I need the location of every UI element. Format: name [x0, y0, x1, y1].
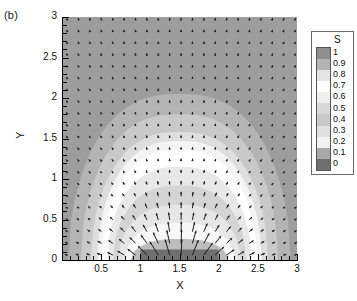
x-tick — [234, 256, 235, 260]
velocity-vector-head — [191, 18, 193, 20]
contour-plot-area — [62, 17, 297, 260]
colorbar-title: S — [334, 34, 341, 45]
velocity-vector-head — [112, 112, 114, 115]
x-tick-label: 2 — [216, 263, 222, 274]
y-tick — [63, 82, 67, 83]
y-tick — [63, 139, 69, 140]
x-tick-label: 1.5 — [173, 263, 187, 274]
x-tick — [219, 254, 220, 260]
velocity-vector-head — [78, 53, 80, 56]
velocity-vector-head — [260, 112, 262, 115]
x-tick — [140, 254, 141, 260]
colorbar-band — [317, 81, 330, 92]
y-tick — [63, 236, 67, 237]
x-tick-label: 1 — [138, 263, 144, 274]
velocity-vector-head — [294, 112, 296, 115]
x-axis-title: X — [176, 279, 183, 291]
y-tick — [63, 25, 67, 26]
colorbar-tick-label: 0.9 — [333, 59, 346, 68]
velocity-vector-head — [260, 65, 262, 68]
velocity-vector-head — [271, 148, 273, 151]
colorbar-tick-label: 0.1 — [333, 148, 346, 157]
y-tick — [63, 49, 67, 50]
colorbar-tick-label: 0.7 — [333, 81, 346, 90]
velocity-vector-head — [203, 53, 205, 56]
velocity-vector-head — [282, 18, 284, 21]
colorbar-tick-label: 0.2 — [333, 137, 346, 146]
velocity-vector-head — [260, 124, 262, 127]
x-tick-label: 3 — [294, 263, 300, 274]
velocity-vector-head — [282, 53, 284, 56]
velocity-vector-head — [67, 18, 69, 21]
velocity-vector-head — [282, 171, 284, 174]
velocity-vector-head — [203, 77, 205, 80]
x-tick — [78, 256, 79, 260]
x-tick — [117, 256, 118, 260]
velocity-vector-head — [101, 112, 103, 115]
velocity-vector-head — [169, 88, 171, 90]
velocity-vector-head — [271, 124, 273, 127]
velocity-vector-head — [260, 77, 262, 80]
velocity-vector-head — [260, 53, 262, 56]
velocity-vector-head — [282, 159, 284, 162]
velocity-vector-head — [282, 112, 284, 115]
velocity-vector-head — [66, 183, 69, 185]
y-tick — [63, 244, 67, 245]
velocity-vector-head — [66, 148, 68, 151]
velocity-vector-head — [282, 124, 284, 127]
y-tick — [63, 33, 67, 34]
velocity-vector-head — [169, 18, 171, 20]
velocity-vector-head — [294, 30, 296, 33]
y-tick — [63, 155, 67, 156]
x-tick — [266, 256, 267, 260]
velocity-vector-head — [294, 136, 296, 139]
velocity-vector-head — [294, 54, 296, 57]
velocity-vector-head — [294, 207, 297, 209]
velocity-vector-head — [248, 100, 250, 103]
x-tick — [101, 254, 102, 260]
y-tick — [63, 90, 67, 91]
velocity-vector-head — [89, 112, 91, 115]
y-tick — [63, 179, 69, 180]
velocity-vector-head — [101, 53, 103, 56]
x-tick-label: 0.5 — [94, 263, 108, 274]
velocity-vector-head — [294, 231, 297, 233]
x-tick — [86, 256, 87, 260]
velocity-vector-head — [89, 89, 91, 92]
velocity-vector-head — [66, 77, 68, 80]
velocity-vector-head — [282, 136, 284, 139]
velocity-vector-head — [191, 88, 193, 91]
velocity-vector-head — [89, 42, 91, 45]
x-tick — [109, 256, 110, 260]
velocity-vector-head — [294, 171, 296, 174]
x-tick — [274, 256, 275, 260]
y-tick — [63, 220, 69, 221]
y-tick — [63, 252, 67, 253]
y-tick — [63, 114, 67, 115]
velocity-vector-head — [271, 30, 273, 33]
y-tick — [63, 163, 67, 164]
velocity-vector-head — [271, 136, 273, 139]
y-tick — [63, 211, 67, 212]
velocity-vector-head — [89, 77, 91, 80]
velocity-vector-head — [203, 30, 205, 33]
velocity-vector-head — [78, 159, 80, 162]
velocity-vector-head — [191, 65, 193, 67]
velocity-vector-head — [191, 53, 193, 55]
colorbar-tick-label: 0.5 — [333, 104, 346, 113]
y-tick — [63, 228, 67, 229]
velocity-vector-head — [294, 148, 296, 151]
y-tick — [63, 171, 67, 172]
y-tick — [63, 187, 67, 188]
y-tick — [63, 195, 67, 196]
velocity-vector-head — [101, 65, 103, 68]
velocity-vector-head — [271, 53, 273, 56]
figure-panel-b: (b) 0.511.522.53 00.511.522.53 X Y S 10.… — [0, 0, 357, 301]
velocity-vector-head — [169, 30, 171, 32]
velocity-vector-head — [282, 101, 284, 104]
velocity-vector-head — [89, 53, 91, 56]
velocity-vector-head — [282, 183, 285, 185]
x-tick — [289, 256, 290, 260]
x-tick — [227, 256, 228, 260]
x-tick — [148, 256, 149, 260]
